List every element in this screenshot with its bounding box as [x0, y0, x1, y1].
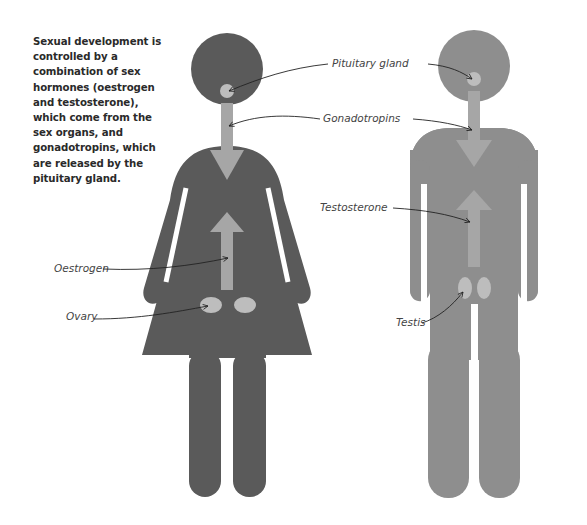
male-pituitary-gland	[467, 72, 481, 86]
label-oestrogen: Oestrogen	[54, 262, 109, 274]
label-ovary: Ovary	[66, 310, 98, 322]
label-gonadotropins: Gonadotropins	[323, 112, 401, 124]
female-gonadotropin-arrow	[221, 103, 233, 153]
hormone-diagram: Pituitary gland Gonadotropins Testostero…	[0, 0, 587, 525]
label-testis: Testis	[396, 316, 426, 328]
female-figure	[142, 33, 312, 497]
male-figure	[410, 30, 538, 504]
leader-gonadotropins-female	[229, 116, 320, 126]
testis-right	[477, 277, 491, 299]
female-pituitary-gland	[220, 84, 234, 98]
female-right-leg	[233, 350, 266, 497]
male-left-leg	[428, 340, 469, 498]
female-left-leg	[189, 350, 221, 497]
ovary-left	[200, 297, 222, 313]
label-pituitary-gland: Pituitary gland	[332, 57, 409, 69]
label-testosterone: Testosterone	[320, 201, 388, 213]
male-gonadotropin-arrow	[468, 91, 480, 145]
ovary-right	[234, 297, 256, 313]
male-right-leg	[479, 340, 520, 498]
